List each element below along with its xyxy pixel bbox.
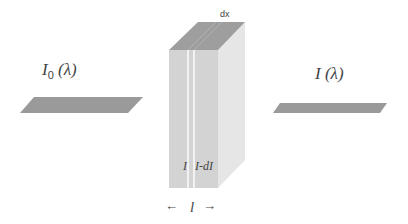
transmitted-wavelength: (λ) [321,64,344,83]
slab-side-face [218,22,245,188]
slice-input-intensity-label: I [183,159,187,174]
slice-boundary-in [187,50,189,188]
diagram-canvas: I0 (λ) I (λ) dx I I-dI ← l → [0,0,408,224]
incident-beam [20,97,143,113]
transmitted-beam [273,103,387,113]
path-length-left-arrow: ← [165,198,178,213]
slice-output-intensity-label: I-dI [195,159,213,174]
transmitted-intensity-label: I (λ) [315,64,344,84]
path-length-right-arrow: → [203,198,216,213]
incident-wavelength: (λ) [54,60,77,79]
path-length-label: l [190,199,194,216]
slice-thickness-label: dx [220,9,230,19]
incident-intensity-label: I0 (λ) [42,60,77,81]
diagram-graphic [0,0,408,224]
